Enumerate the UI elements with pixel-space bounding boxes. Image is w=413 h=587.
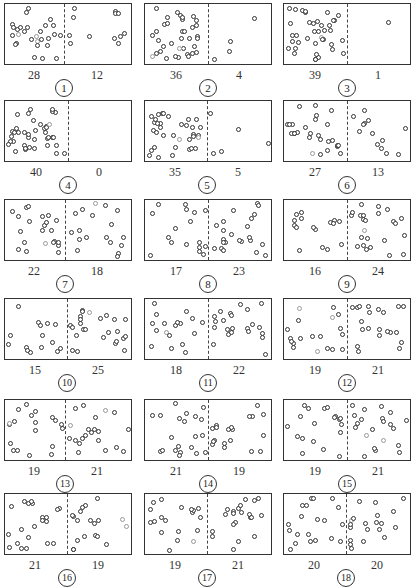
particle-left <box>24 249 29 254</box>
particle-right <box>368 245 373 250</box>
step-panel-9: 16 24 9 <box>283 199 411 293</box>
particle-right <box>361 213 366 218</box>
container-box <box>4 399 132 461</box>
container-box <box>144 3 272 65</box>
particle-right <box>114 339 119 344</box>
left-count: 19 <box>19 465 49 477</box>
particle-right <box>386 20 391 25</box>
particle-right <box>87 310 92 315</box>
particle-right <box>252 534 257 539</box>
particle-left <box>338 151 343 156</box>
particle-right <box>355 421 360 426</box>
particle-left <box>201 405 206 410</box>
particle-left <box>26 111 31 116</box>
particle-left <box>176 444 181 449</box>
particle-left <box>179 36 184 41</box>
particle-left <box>173 145 178 150</box>
particle-left <box>177 453 182 458</box>
particle-right <box>401 252 406 257</box>
particle-left <box>296 40 301 45</box>
particle-right <box>359 319 364 324</box>
partition-dashed-line <box>208 200 209 260</box>
particle-left <box>332 415 337 420</box>
particle-left <box>50 107 55 112</box>
particle-left <box>154 328 159 333</box>
particle-right <box>387 253 392 258</box>
left-count: 19 <box>300 465 330 477</box>
particle-right <box>90 213 95 218</box>
particle-left <box>56 240 61 245</box>
particle-right <box>121 235 126 240</box>
step-number-circle: 4 <box>59 176 77 194</box>
particle-left <box>26 535 31 540</box>
particle-right <box>103 203 108 208</box>
particle-right <box>260 242 265 247</box>
left-count: 19 <box>300 364 330 376</box>
particle-right <box>236 127 241 132</box>
particle-left <box>299 216 304 221</box>
particle-right <box>362 454 367 459</box>
particle-left <box>32 137 37 142</box>
container-box <box>144 493 272 555</box>
particle-right <box>74 333 79 338</box>
particle-right <box>115 254 120 259</box>
particle-left <box>196 135 201 140</box>
step-number-circle: 15 <box>338 475 356 493</box>
particle-left <box>318 152 323 157</box>
particle-right <box>349 546 354 551</box>
particle-right <box>77 237 82 242</box>
particle-left <box>195 36 200 41</box>
particle-right <box>397 450 402 455</box>
particle-left <box>192 210 197 215</box>
particle-left <box>316 29 321 34</box>
particle-left <box>292 51 297 56</box>
particle-right <box>78 321 83 326</box>
particle-right <box>77 228 82 233</box>
particle-left <box>308 539 313 544</box>
particle-left <box>340 332 345 337</box>
right-count: 20 <box>362 559 392 571</box>
container-box <box>283 493 411 555</box>
particle-right <box>67 33 72 38</box>
particle-left <box>200 433 205 438</box>
particle-left <box>340 522 345 527</box>
left-count: 39 <box>300 69 330 81</box>
particle-right <box>382 535 387 540</box>
particle-right <box>95 496 100 501</box>
particle-left <box>200 320 205 325</box>
partition-dashed-line <box>208 400 209 460</box>
particle-right <box>403 126 408 131</box>
particle-left <box>158 413 163 418</box>
particle-right <box>263 253 268 258</box>
particle-left <box>54 143 59 148</box>
container-box <box>4 298 132 360</box>
partition-dashed-line <box>347 299 348 359</box>
particle-right <box>109 222 114 227</box>
particle-left <box>152 301 157 306</box>
particle-left <box>182 419 187 424</box>
particle-right <box>359 202 364 207</box>
particle-left <box>156 202 161 207</box>
particle-left <box>154 29 159 34</box>
particle-left <box>298 414 303 419</box>
particle-right <box>121 449 126 454</box>
particle-left <box>338 326 343 331</box>
particle-left <box>52 32 57 37</box>
particle-left <box>169 346 174 351</box>
particle-right <box>212 246 217 251</box>
particle-left <box>184 309 189 314</box>
particle-left <box>167 333 172 338</box>
particle-left <box>25 348 30 353</box>
particle-left <box>32 55 37 60</box>
step-number-circle: 7 <box>56 275 74 293</box>
particle-right <box>252 212 257 217</box>
particle-right <box>210 426 215 431</box>
particle-left <box>33 409 38 414</box>
step-number-circle: 1 <box>55 79 73 97</box>
particle-left <box>170 153 175 158</box>
particle-right <box>376 204 381 209</box>
particle-left <box>19 527 24 532</box>
particle-right <box>364 433 369 438</box>
right-count: 24 <box>363 265 393 277</box>
particle-right <box>114 445 119 450</box>
